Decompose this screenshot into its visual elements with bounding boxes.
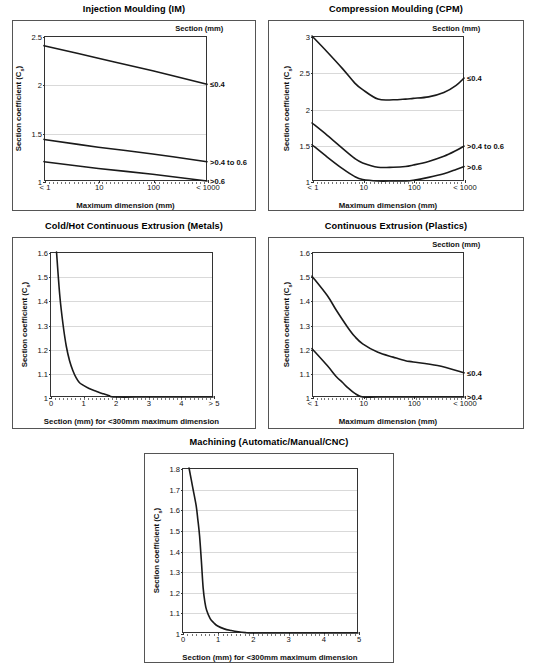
y-tick-label: 1.3 bbox=[169, 568, 183, 577]
series-curves-cold-hot-continuous-extrusion-metals bbox=[50, 252, 215, 399]
y-tick-label: 1.6 bbox=[37, 249, 51, 258]
y-tick-label: 1.5 bbox=[169, 526, 183, 535]
y-tick-label: 2.5 bbox=[31, 33, 45, 42]
x-tick-label: 1 bbox=[216, 635, 220, 644]
series-label: >0.4 to 0.6 bbox=[210, 157, 247, 166]
y-axis-label-text: Section coefficient (C bbox=[282, 288, 291, 368]
series-line bbox=[57, 252, 213, 397]
series-curves-compression-moulding bbox=[312, 36, 466, 183]
x-tick-label: 0 bbox=[181, 635, 185, 644]
y-axis-label: Section coefficient (Cs) bbox=[152, 468, 163, 633]
series-label: >0.4 to 0.6 bbox=[467, 142, 504, 151]
chart-sheet: Injection Moulding (IM) Compression Moul… bbox=[0, 0, 534, 668]
x-tick-label: 4 bbox=[322, 635, 326, 644]
y-tick-label: 1.3 bbox=[299, 321, 313, 330]
x-tick-label: 4 bbox=[179, 399, 183, 408]
series-line bbox=[312, 276, 464, 373]
x-tick-label: 2 bbox=[251, 635, 255, 644]
y-tick-label: 1.5 bbox=[299, 273, 313, 282]
y-tick-label: 1.6 bbox=[299, 249, 313, 258]
y-tick-label: 1.5 bbox=[31, 129, 45, 138]
y-axis-label-text: Section coefficient (C bbox=[14, 72, 23, 152]
x-tick-label: 5 bbox=[357, 635, 361, 644]
y-axis-label-text: Section coefficient (C bbox=[152, 514, 161, 594]
series-curves-injection-moulding bbox=[44, 36, 209, 183]
y-axis-label-subscript: s bbox=[287, 284, 293, 287]
legend-title: Section (mm) bbox=[432, 24, 480, 33]
series-curves-continuous-extrusion-plastics bbox=[312, 252, 466, 399]
y-axis-label-paren: ) bbox=[282, 66, 291, 69]
x-axis-label: Maximum dimension (mm) bbox=[272, 417, 504, 426]
y-axis-label-subscript: s bbox=[25, 284, 31, 287]
x-axis-label: Section (mm) for <300mm maximum dimensio… bbox=[10, 417, 253, 426]
x-tick-label: 10 bbox=[359, 183, 367, 192]
y-tick-label: 1.2 bbox=[299, 345, 313, 354]
series-line bbox=[44, 162, 207, 181]
x-tick-label: < 1 bbox=[308, 183, 319, 192]
legend-title: Section (mm) bbox=[175, 24, 223, 33]
x-tick-label: 100 bbox=[147, 183, 160, 192]
series-line bbox=[44, 139, 207, 161]
x-tick-label: 10 bbox=[359, 399, 367, 408]
x-tick-label: 100 bbox=[408, 183, 421, 192]
series-line bbox=[312, 145, 464, 181]
series-label: ≤0.4 bbox=[467, 368, 482, 377]
y-axis-label-text: Section coefficient (C bbox=[282, 72, 291, 152]
x-axis-label: Section (mm) for <300mm maximum dimensio… bbox=[142, 653, 398, 662]
x-tick-label: 3 bbox=[147, 399, 151, 408]
y-tick-label: 1.5 bbox=[37, 273, 51, 282]
series-label: ≤0.4 bbox=[210, 80, 225, 89]
panel-title: Machining (Automatic/Manual/CNC) bbox=[144, 437, 394, 447]
y-tick-label: 1.3 bbox=[37, 321, 51, 330]
series-line bbox=[44, 46, 207, 85]
panel-title: Continuous Extrusion (Plastics) bbox=[268, 221, 524, 231]
x-tick-label: 1 bbox=[81, 399, 85, 408]
x-axis-label: Maximum dimension (mm) bbox=[272, 201, 504, 210]
y-axis-label: Section coefficient (Cs) bbox=[282, 36, 293, 181]
y-tick-label: 1.7 bbox=[169, 485, 183, 494]
y-tick-label: 1.4 bbox=[37, 297, 51, 306]
y-axis-label-paren: ) bbox=[282, 282, 291, 285]
x-tick-label: < 1000 bbox=[453, 183, 476, 192]
series-line bbox=[189, 468, 358, 633]
series-label: >0.6 bbox=[210, 177, 225, 186]
x-tick-label: 10 bbox=[95, 183, 103, 192]
x-tick-label: 2 bbox=[114, 399, 118, 408]
y-tick-label: 1.4 bbox=[169, 547, 183, 556]
y-tick-label: 1.2 bbox=[37, 345, 51, 354]
y-axis-label: Section coefficient (Cs) bbox=[14, 36, 25, 181]
y-tick-label: 1.1 bbox=[169, 609, 183, 618]
legend-title: Section (mm) bbox=[432, 240, 480, 249]
x-tick-label: 100 bbox=[408, 399, 421, 408]
y-tick-label: 1.2 bbox=[169, 588, 183, 597]
y-axis-label-subscript: s bbox=[287, 68, 293, 71]
x-tick-label: 0 bbox=[49, 399, 53, 408]
y-tick-label: 2.5 bbox=[299, 69, 313, 78]
series-label: ≤0.4 bbox=[467, 74, 482, 83]
y-axis-label: Section coefficient (Cs) bbox=[282, 252, 293, 397]
panel-title: Injection Moulding (IM) bbox=[12, 4, 256, 14]
x-tick-label: < 1 bbox=[40, 183, 51, 192]
y-tick-label: 1.8 bbox=[169, 465, 183, 474]
x-tick-label: 3 bbox=[286, 635, 290, 644]
y-tick-label: 1.4 bbox=[299, 297, 313, 306]
x-tick-label: > 5 bbox=[209, 399, 220, 408]
series-label: >0.4 bbox=[467, 393, 482, 402]
x-axis-label: Maximum dimension (mm) bbox=[4, 201, 247, 210]
y-axis-label: Section coefficient (Cs) bbox=[20, 252, 31, 397]
y-tick-label: 1.6 bbox=[169, 506, 183, 515]
y-axis-label-paren: ) bbox=[14, 66, 23, 69]
x-tick-label: < 1 bbox=[308, 399, 319, 408]
y-tick-label: 1.1 bbox=[37, 369, 51, 378]
panel-title: Cold/Hot Continuous Extrusion (Metals) bbox=[12, 221, 256, 231]
series-label: >0.6 bbox=[467, 162, 482, 171]
y-axis-label-subscript: s bbox=[19, 68, 25, 71]
y-tick-label: 1.5 bbox=[299, 141, 313, 150]
y-tick-label: 1.1 bbox=[299, 369, 313, 378]
series-curves-machining bbox=[182, 468, 360, 635]
series-line bbox=[312, 123, 464, 168]
y-axis-label-text: Section coefficient (C bbox=[20, 288, 29, 368]
panel-title: Compression Moulding (CPM) bbox=[268, 4, 524, 14]
y-axis-label-paren: ) bbox=[152, 508, 161, 511]
y-axis-label-paren: ) bbox=[20, 282, 29, 285]
